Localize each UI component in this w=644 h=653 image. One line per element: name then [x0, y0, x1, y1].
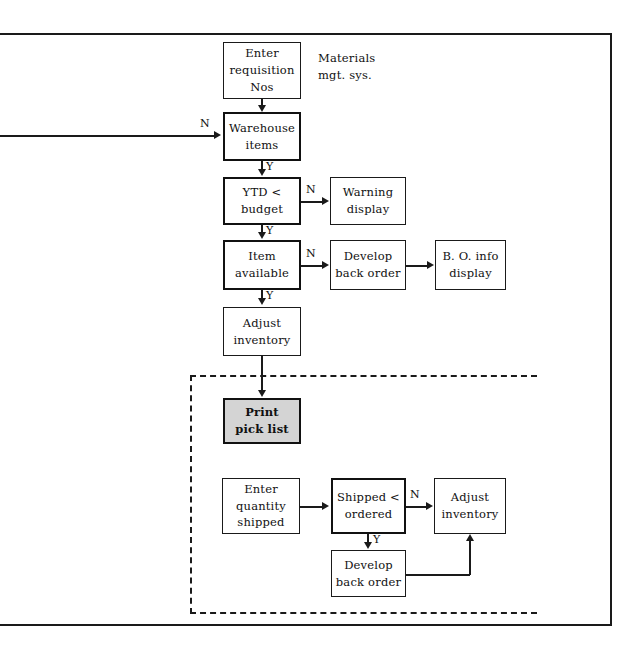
frame-bottom-border: [0, 624, 612, 626]
node-adjust-inventory-lower-label: Adjust inventory: [438, 489, 501, 522]
branch-label-shipped-no: N: [410, 488, 420, 501]
node-warehouse-items[interactable]: Warehouse items: [223, 112, 301, 161]
connector-item-no-to-develop: [301, 265, 324, 267]
node-bo-info-display[interactable]: B. O. info display: [435, 240, 506, 290]
branch-label-item-no: N: [306, 247, 316, 260]
materials-mgt-sys-label: Materials mgt. sys.: [318, 50, 375, 85]
node-develop-back-order-upper-label: Develop back order: [332, 248, 403, 281]
node-develop-back-order-lower[interactable]: Develop back order: [331, 550, 406, 597]
arrowhead-warehouse-no-feedback: [214, 131, 221, 139]
node-develop-back-order-lower-label: Develop back order: [333, 557, 404, 590]
node-adjust-inventory-lower[interactable]: Adjust inventory: [434, 478, 506, 534]
connector-ytd-no-to-warning: [301, 201, 324, 203]
branch-label-item-yes: Y: [266, 289, 273, 302]
arrowhead-quantity-to-shipped: [322, 502, 329, 510]
node-develop-back-order-upper[interactable]: Develop back order: [330, 240, 406, 290]
node-adjust-inventory-upper-label: Adjust inventory: [230, 315, 293, 348]
node-enter-quantity-shipped-label: Enter quantity shipped: [233, 481, 289, 531]
node-shipped-ordered[interactable]: Shipped < ordered: [331, 478, 406, 534]
node-warning-display-label: Warning display: [340, 184, 396, 217]
branch-label-shipped-yes: Y: [373, 533, 380, 546]
arrowhead-item-to-adjust: [258, 298, 266, 305]
connector-develop-lower-to-adjust-horizontal: [406, 574, 470, 576]
node-shipped-ordered-label: Shipped < ordered: [334, 489, 403, 522]
arrowhead-develop-to-bo-info: [427, 261, 434, 269]
branch-label-warehouse-yes: Y: [266, 160, 273, 173]
branch-label-ytd-no: N: [306, 183, 316, 196]
node-enter-quantity-shipped[interactable]: Enter quantity shipped: [222, 478, 300, 534]
branch-label-ytd-yes: Y: [266, 224, 273, 237]
connector-warehouse-no-feedback: [0, 135, 215, 137]
node-enter-requisition-label: Enter requisition Nos: [226, 45, 297, 95]
arrowhead-warehouse-to-ytd: [258, 169, 266, 176]
connector-adjust-to-print: [261, 356, 263, 391]
node-item-available-label: Item available: [232, 248, 292, 281]
arrowhead-requisition-to-warehouse: [258, 105, 266, 112]
connector-quantity-to-shipped: [300, 506, 324, 508]
connector-develop-to-bo-info: [406, 265, 429, 267]
arrowhead-ytd-to-item-available: [258, 232, 266, 239]
arrowhead-ytd-no-to-warning: [322, 197, 329, 205]
branch-label-warehouse-no: N: [200, 117, 210, 130]
arrowhead-develop-lower-to-adjust: [466, 534, 474, 541]
node-adjust-inventory-upper[interactable]: Adjust inventory: [223, 307, 301, 356]
arrowhead-adjust-to-print: [258, 390, 266, 397]
node-ytd-budget[interactable]: YTD < budget: [223, 177, 301, 225]
node-item-available[interactable]: Item available: [223, 240, 301, 290]
arrowhead-item-no-to-develop: [322, 261, 329, 269]
node-print-pick-list-label: Print pick list: [232, 404, 292, 437]
arrowhead-shipped-yes-to-develop: [364, 542, 372, 549]
dashed-region-top: [190, 375, 537, 377]
node-enter-requisition[interactable]: Enter requisition Nos: [223, 42, 301, 99]
dashed-region-bottom: [190, 612, 537, 614]
dashed-region-left: [190, 375, 192, 614]
node-bo-info-display-label: B. O. info display: [439, 248, 501, 281]
frame-right-border: [610, 33, 612, 626]
node-warning-display[interactable]: Warning display: [330, 177, 406, 225]
frame-top-border: [0, 33, 612, 35]
node-print-pick-list[interactable]: Print pick list: [223, 398, 301, 444]
flowchart-canvas: Materials mgt. sys. Enter requisition No…: [0, 0, 644, 653]
connector-shipped-no-to-adjust: [406, 506, 428, 508]
connector-develop-lower-to-adjust-vertical: [469, 541, 471, 575]
node-ytd-budget-label: YTD < budget: [238, 184, 286, 217]
arrowhead-shipped-no-to-adjust: [426, 502, 433, 510]
node-warehouse-items-label: Warehouse items: [226, 120, 298, 153]
